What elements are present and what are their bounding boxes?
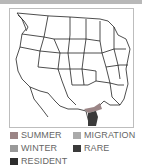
rare-swatch [73, 145, 81, 152]
winter-swatch [10, 145, 18, 152]
legend-item-summer: SUMMER [10, 130, 62, 140]
migration-swatch [73, 132, 81, 139]
legend-label: RESIDENT [21, 156, 67, 166]
us-outline-map [10, 9, 133, 127]
legend-item-resident: RESIDENT [10, 156, 67, 166]
legend-label: RARE [84, 143, 109, 153]
legend-label: WINTER [21, 143, 57, 153]
resident-range [88, 111, 98, 126]
range-map [9, 8, 134, 128]
summer-range [84, 103, 102, 113]
summer-swatch [10, 132, 18, 139]
resident-swatch [10, 158, 18, 165]
legend-item-rare: RARE [73, 143, 109, 153]
legend-label: SUMMER [21, 130, 62, 140]
legend-label: MIGRATION [84, 130, 135, 140]
legend-item-winter: WINTER [10, 143, 57, 153]
legend-item-migration: MIGRATION [73, 130, 135, 140]
top-bar [0, 0, 142, 4]
